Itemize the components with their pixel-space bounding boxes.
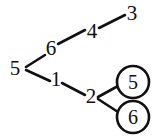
edges-group: [26, 15, 125, 112]
graph-edge: [58, 30, 85, 44]
graph-node-label: 4: [87, 19, 98, 43]
graph-node-label: 3: [127, 1, 138, 25]
graph-node-circled-label: 6: [128, 106, 138, 128]
graph-diagram-svg: 56431256: [0, 0, 156, 138]
graph-node-label: 6: [46, 36, 57, 60]
graph-node-label: 2: [86, 84, 97, 108]
graph-edge: [98, 99, 118, 112]
graph-edge: [99, 15, 125, 28]
graph-node-label: 1: [51, 67, 62, 91]
graph-edge: [26, 55, 45, 67]
graph-edge: [98, 86, 118, 97]
graph-diagram-canvas: 56431256: [0, 0, 156, 138]
graph-node-label: 5: [10, 56, 21, 80]
graph-edge: [62, 83, 85, 95]
graph-edge: [26, 70, 50, 81]
graph-node-circled-label: 5: [128, 71, 138, 93]
